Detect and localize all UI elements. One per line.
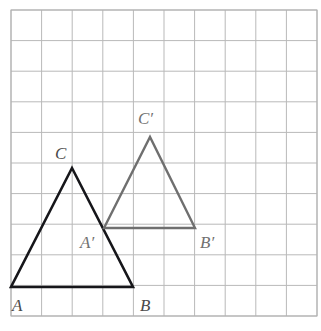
triangle-a-prime-b-prime-c-prime [104,137,195,228]
vertex-label-b: B [140,297,150,314]
diagram-canvas: ABCA′B′C′ [0,0,321,331]
vertex-label-a-prime: A′ [80,234,94,251]
vertex-label-a: A [12,297,22,314]
vertex-label-b-prime: B′ [200,234,214,251]
grid-geometry-figure [0,0,321,331]
vertex-label-c: C [55,145,66,162]
vertex-label-c-prime: C′ [138,110,153,127]
